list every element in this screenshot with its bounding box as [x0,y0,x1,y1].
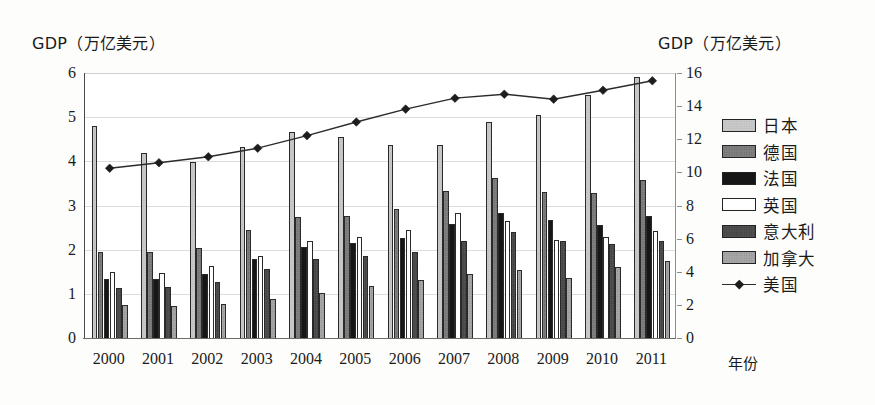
left-axis-tick-label: 5 [36,108,76,126]
right-axis-tick-label: 8 [686,197,726,215]
legend-item[interactable]: 英国 [722,192,868,219]
x-axis-tick-label: 2011 [636,350,667,368]
legend-item[interactable]: 加拿大 [722,245,868,272]
right-axis-tick-label: 12 [686,130,726,148]
legend-line-marker-icon [722,278,756,291]
left-axis-tick-label: 2 [36,241,76,259]
right-axis-title: GDP（万亿美元） [658,30,791,54]
x-axis-tick-label: 2004 [290,350,322,368]
diamond-marker-icon [303,131,312,140]
right-axis-tick-label: 16 [686,64,726,82]
x-axis-title: 年份 [728,352,759,373]
right-axis-tick-mark [677,139,682,140]
x-axis-tick-label: 2008 [487,350,519,368]
usa-line-path [110,81,653,168]
right-axis-tick-label: 6 [686,230,726,248]
left-axis-tick-label: 3 [36,197,76,215]
right-axis-tick-mark [677,239,682,240]
legend-swatch [722,198,756,211]
legend-label: 加拿大 [763,246,816,270]
diamond-marker-icon [500,90,509,99]
left-axis-tick-label: 6 [36,64,76,82]
right-axis-tick-mark [677,172,682,173]
legend-item[interactable]: 德国 [722,139,868,166]
right-axis-tick-label: 2 [686,296,726,314]
legend-label: 法国 [763,166,798,190]
left-axis-tick-label: 4 [36,152,76,170]
right-axis-tick-mark [677,106,682,107]
legend-label: 意大利 [763,219,816,243]
diamond-marker-icon [401,105,410,114]
x-axis-tick-label: 2000 [93,350,125,368]
legend-label: 德国 [763,140,798,164]
right-axis-tick-mark [677,206,682,207]
legend-label: 日本 [763,113,798,137]
legend-item[interactable]: 法国 [722,165,868,192]
right-axis-tick-label: 14 [686,97,726,115]
x-axis-tick-label: 2003 [241,350,273,368]
right-axis-tick-label: 10 [686,163,726,181]
legend-swatch [722,145,756,158]
legend-swatch [722,119,756,132]
diamond-marker-icon [599,86,608,95]
legend-label: 美国 [763,272,798,296]
right-axis-tick-mark [677,272,682,273]
plot-area [84,73,676,338]
legend-swatch [722,172,756,185]
x-axis-tick-label: 2007 [438,350,470,368]
legend-swatch [722,225,756,238]
left-axis-tick-label: 1 [36,285,76,303]
legend-item[interactable]: 意大利 [722,218,868,245]
right-axis-tick-mark [677,73,682,74]
x-axis-baseline [83,338,676,339]
diamond-marker-icon [549,95,558,104]
diamond-marker-icon [105,164,114,173]
chart-legend: 日本德国法国英国意大利加拿大美国 [722,112,868,298]
x-axis-tick-label: 2002 [191,350,223,368]
diamond-marker-icon [352,118,361,127]
left-axis-title: GDP（万亿美元） [32,30,165,54]
x-axis-tick-label: 2001 [142,350,174,368]
x-axis-tick-label: 2010 [586,350,618,368]
diamond-marker-icon [648,76,657,85]
legend-label: 英国 [763,193,798,217]
diamond-marker-icon [451,94,460,103]
legend-item[interactable]: 日本 [722,112,868,139]
legend-item[interactable]: 美国 [722,271,868,298]
x-axis-tick-label: 2009 [537,350,569,368]
left-axis-tick-label: 0 [36,329,76,347]
x-axis-tick-label: 2005 [339,350,371,368]
right-axis-tick-label: 4 [686,263,726,281]
diamond-marker-icon [253,144,262,153]
x-axis-tick-label: 2006 [389,350,421,368]
diamond-marker-icon [155,158,164,167]
right-axis-tick-mark [677,305,682,306]
diamond-marker-icon [204,153,213,162]
legend-swatch [722,251,756,264]
right-axis-tick-label: 0 [686,329,726,347]
usa-line-series [85,73,677,338]
right-axis-tick-mark [677,338,682,339]
